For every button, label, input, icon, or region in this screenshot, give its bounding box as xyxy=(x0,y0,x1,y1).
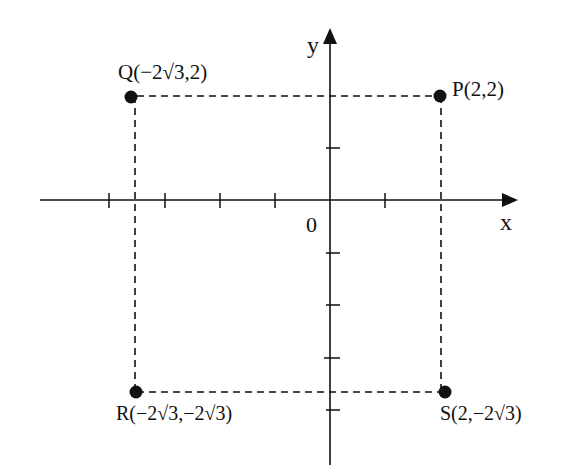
dashed-rectangle xyxy=(135,96,441,392)
point-s xyxy=(439,386,452,399)
y-axis-arrow-icon xyxy=(323,28,337,44)
point-p xyxy=(434,90,447,103)
point-q-label: Q(−2√3,2) xyxy=(118,60,207,84)
origin-label: 0 xyxy=(306,212,317,237)
x-axis-arrow-icon xyxy=(502,193,518,207)
y-axis-label: y xyxy=(307,32,319,58)
point-q xyxy=(125,91,138,104)
point-s-label: S(2,−2√3) xyxy=(440,402,522,425)
y-ticks xyxy=(324,148,340,410)
point-r xyxy=(130,386,143,399)
x-axis-label: x xyxy=(500,209,512,235)
point-p-label: P(2,2) xyxy=(452,77,504,101)
coordinate-diagram: P(2,2) Q(−2√3,2) R(−2√3,−2√3) S(2,−2√3) … xyxy=(0,0,583,465)
point-r-label: R(−2√3,−2√3) xyxy=(116,402,232,425)
